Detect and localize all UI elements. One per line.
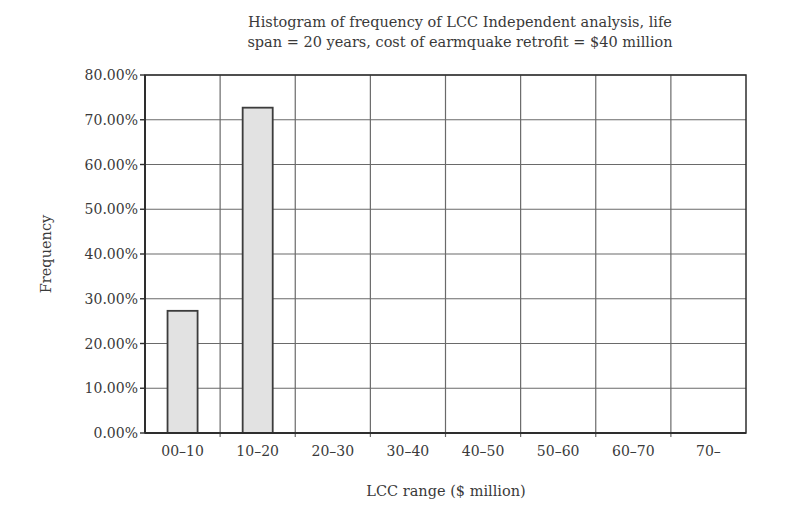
y-tick-label: 40.00%	[85, 246, 138, 262]
y-tick-label: 0.00%	[94, 425, 138, 441]
histogram-bar	[168, 311, 198, 433]
x-tick-label: 70–	[696, 443, 721, 459]
y-tick-label: 10.00%	[85, 380, 138, 396]
x-tick-label: 60–70	[612, 443, 655, 459]
x-tick-label: 00–10	[161, 443, 204, 459]
x-tick-label: 50–60	[537, 443, 580, 459]
x-tick-label: 10–20	[236, 443, 279, 459]
x-tick-label: 20–30	[311, 443, 354, 459]
y-tick-label: 50.00%	[85, 201, 138, 217]
x-tick-label: 30–40	[387, 443, 430, 459]
y-tick-label: 80.00%	[85, 67, 138, 83]
y-tick-label: 30.00%	[85, 291, 138, 307]
y-tick-label: 70.00%	[85, 112, 138, 128]
y-tick-label: 20.00%	[85, 336, 138, 352]
x-tick-label: 40–50	[462, 443, 505, 459]
y-tick-label: 60.00%	[85, 157, 138, 173]
histogram-bar	[243, 108, 273, 433]
